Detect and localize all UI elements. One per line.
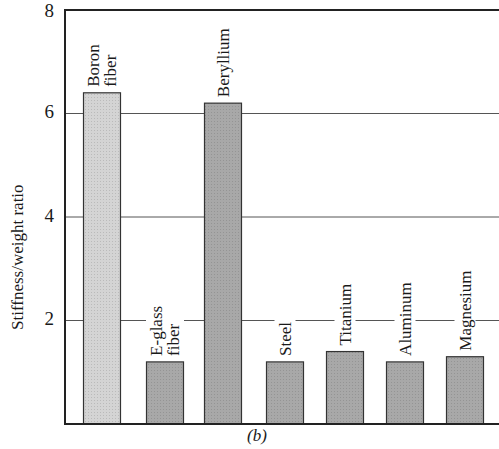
y-tick-4: 4 [34,205,54,227]
y-axis-label: Stiffness/weight ratio [8,210,28,230]
y-axis-label-text: Stiffness/weight ratio [8,184,28,330]
plot-area: BoronfiberE-glassfiberBerylliumSteelTita… [0,0,499,449]
bar-titanium [327,352,364,424]
bar-e-glass-fiber [147,362,184,424]
bar-magnesium [447,357,484,424]
bar-beryllium [205,103,242,424]
bar-boron-fiber [84,93,121,424]
bar-steel [267,362,304,424]
y-tick-6: 6 [34,101,54,123]
bar-label: Steel [276,322,295,356]
bar-aluminum [387,362,424,424]
bar-label: Magnesium [456,270,475,350]
figure-caption: (b) [247,426,267,446]
bar-label: Beryllium [214,28,233,97]
bar-label: Aluminum [396,282,415,356]
y-tick-8: 8 [34,0,54,22]
bar-label: fiber [102,54,121,86]
y-tick-2: 2 [34,308,54,330]
stiffness-weight-bar-chart: BoronfiberE-glassfiberBerylliumSteelTita… [0,0,499,449]
bar-label: Titanium [336,284,355,346]
bar-label: fiber [165,323,184,355]
